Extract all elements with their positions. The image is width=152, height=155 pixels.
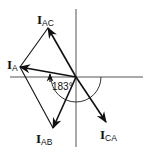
construction-line-ia-iac [20, 28, 48, 67]
phasor-diagram: IAC IA IAB ICA 183° [0, 0, 152, 155]
angle-label: 183° [52, 81, 73, 92]
label-i-ab: IAB [36, 131, 53, 147]
construction-line-ia-iab [20, 67, 53, 128]
vector-i-ac [48, 28, 76, 77]
label-i-ca: ICA [100, 127, 117, 143]
label-i-a: IA [7, 57, 18, 73]
label-i-ac: IAC [37, 12, 54, 28]
vector-i-ca [76, 77, 106, 122]
vector-i-a [20, 67, 76, 77]
